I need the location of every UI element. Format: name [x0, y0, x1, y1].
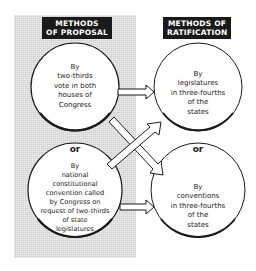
ratification-text-conventions: By conventions in three-fourths of the s…: [160, 183, 236, 230]
proposal-text-congress: By two-thirds vote in both houses of Con…: [40, 63, 110, 110]
header-methods-of-proposal: METHODS OF PROPOSAL: [42, 17, 112, 39]
proposal-text-convention: By national constitutional convention ca…: [28, 162, 122, 234]
header-methods-of-ratification: METHODS OF RATIFICATION: [163, 17, 231, 39]
or-label-proposal: or: [60, 144, 90, 154]
arrow-congress-to-legislatures: [118, 85, 154, 99]
or-label-ratification: or: [183, 144, 213, 154]
arrow-convention-to-conventions: [120, 200, 154, 214]
ratification-text-legislatures: By legislatures in three-fourths of the …: [160, 70, 236, 117]
